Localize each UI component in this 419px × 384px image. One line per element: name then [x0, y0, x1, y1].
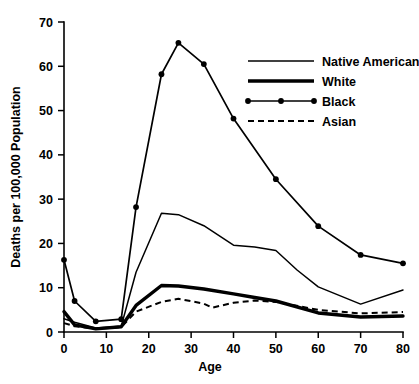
legend-label: Asian — [322, 115, 356, 129]
data-point-marker — [133, 204, 139, 210]
data-point-marker — [358, 252, 364, 258]
legend-marker-dot — [311, 98, 317, 104]
y-tick-label: 0 — [46, 326, 53, 340]
x-axis-title: Age — [198, 360, 222, 374]
x-tick-label: 40 — [227, 342, 241, 356]
x-tick-label: 20 — [142, 342, 156, 356]
data-point-marker — [61, 257, 67, 263]
series-line-asian — [64, 299, 403, 329]
x-tick-label: 50 — [269, 342, 283, 356]
data-point-marker — [72, 298, 78, 304]
y-tick-label: 40 — [39, 148, 53, 162]
x-axis-ticks: 01020304050607080 — [61, 332, 410, 356]
x-tick-label: 10 — [99, 342, 113, 356]
data-point-marker — [273, 176, 279, 182]
y-tick-label: 50 — [39, 104, 53, 118]
y-tick-label: 10 — [39, 281, 53, 295]
y-tick-label: 60 — [39, 60, 53, 74]
y-tick-label: 70 — [39, 16, 53, 30]
data-point-marker — [400, 260, 406, 266]
line-chart-plot: 010203040506070 01020304050607080 Age De… — [0, 0, 419, 384]
legend-label: White — [322, 75, 356, 89]
legend-marker-dot — [245, 98, 251, 104]
x-tick-label: 0 — [61, 342, 68, 356]
y-axis-ticks: 010203040506070 — [39, 16, 64, 340]
page-caption-strip — [0, 376, 419, 384]
legend-label: Native American — [322, 55, 419, 69]
data-point-marker — [315, 223, 321, 229]
data-point-marker — [118, 316, 124, 322]
y-tick-label: 20 — [39, 237, 53, 251]
chart-legend: Native AmericanWhiteBlackAsian — [245, 55, 419, 129]
x-tick-label: 70 — [354, 342, 368, 356]
legend-marker-dot — [278, 98, 284, 104]
x-tick-label: 80 — [396, 342, 410, 356]
data-point-marker — [231, 116, 237, 122]
y-tick-label: 30 — [39, 193, 53, 207]
data-point-marker — [201, 61, 207, 67]
series-line-native-american — [64, 213, 403, 328]
data-point-marker — [159, 71, 165, 77]
data-point-marker — [176, 40, 182, 46]
data-point-marker — [93, 318, 99, 324]
x-tick-label: 60 — [311, 342, 325, 356]
chart-figure: 010203040506070 01020304050607080 Age De… — [0, 0, 419, 384]
legend-label: Black — [322, 95, 355, 109]
series-line-white — [64, 286, 403, 329]
y-axis-title: Deaths per 100,000 Population — [9, 86, 23, 267]
x-tick-label: 30 — [184, 342, 198, 356]
